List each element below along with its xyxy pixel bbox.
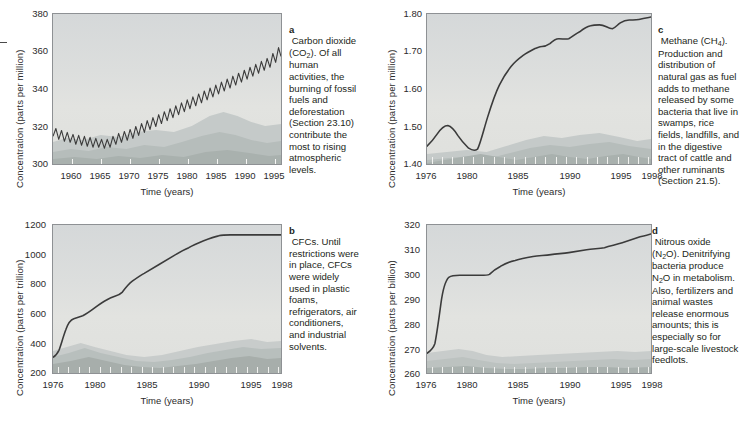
panel-c-methane-curve [427, 14, 651, 164]
panel-d-xtick-1976: 1976 [412, 379, 440, 390]
greenhouse-gas-figure: Concentration (parts per million) 380 36… [0, 0, 743, 432]
panel-d-ytick-310: 310 [390, 244, 420, 255]
panel-a-caption: a Carbon dioxide (CO2). Of all human act… [289, 12, 359, 175]
panel-c-xtick-1980: 1980 [453, 170, 481, 181]
panel-d-ytick-290: 290 [390, 294, 420, 305]
panel-d-ytick-320: 320 [390, 219, 420, 230]
panel-d-ytick-260: 260 [390, 368, 420, 379]
panel-d-caption: d Nitrous oxide (N2O). Denitrifying bact… [652, 213, 740, 366]
panel-a-plot-area [52, 13, 282, 165]
panel-a-xtick-1990: 1990 [231, 170, 259, 181]
panel-b-xlabel: Time (years) [52, 395, 282, 406]
panel-d-n2o-curve [427, 225, 651, 373]
panel-a-ytick-320: 320 [20, 121, 48, 132]
panel-d-xlabel: Time (years) [426, 395, 652, 406]
panel-b-ytick-400: 400 [14, 338, 46, 349]
panel-c-ytick-180: 1.80 [390, 8, 422, 19]
panel-b-ytick-1000: 1000 [14, 249, 46, 260]
panel-b-plot-area [52, 224, 282, 374]
panel-d-caption-lead: d [652, 225, 658, 236]
panel-c-xtick-1976: 1976 [412, 170, 440, 181]
panel-d-xtick-1990: 1990 [556, 379, 584, 390]
panel-a-xtick-1965: 1965 [86, 170, 114, 181]
panel-b-ytick-200: 200 [14, 367, 46, 378]
panel-d-ytick-280: 280 [390, 319, 420, 330]
panel-b-xtick-1998: 1998 [268, 379, 296, 390]
panel-d-xtick-1995: 1995 [607, 379, 635, 390]
panel-b-xtick-1990: 1990 [185, 379, 213, 390]
panel-a-ytick-340: 340 [20, 83, 48, 94]
panel-a-caption-lead: a [289, 24, 294, 35]
panel-a-xtick-1975: 1975 [144, 170, 172, 181]
panel-d-ytick-270: 270 [390, 344, 420, 355]
panel-a-co2-curve [53, 14, 281, 164]
panel-c-caption: c Methane (CH4). Production and distribu… [658, 12, 740, 187]
panel-a-xtick-1960: 1960 [57, 170, 85, 181]
panel-c-ytick-150: 1.50 [390, 121, 422, 132]
panel-a-ytick-300: 300 [20, 158, 48, 169]
panel-d-caption-text: Nitrous oxide (N2O). Denitrifying bacter… [652, 236, 738, 365]
panel-c-xlabel: Time (years) [426, 186, 652, 197]
panel-b-ytick-1200: 1200 [14, 219, 46, 230]
panel-a-xlabel: Time (years) [52, 186, 282, 197]
panel-c-caption-text: Methane (CH4). Production and distributi… [658, 35, 739, 186]
panel-b-caption-lead: b [289, 225, 295, 236]
panel-c-caption-lead: c [658, 24, 663, 35]
panel-d-xtick-1985: 1985 [504, 379, 532, 390]
panel-b-cfc-curve [53, 225, 281, 373]
panel-b-xtick-1985: 1985 [133, 379, 161, 390]
panel-b-ytick-600: 600 [14, 308, 46, 319]
panel-d-ytick-300: 300 [390, 269, 420, 280]
panel-a-ytick-380: 380 [20, 8, 48, 19]
panel-c-xtick-1985: 1985 [504, 170, 532, 181]
panel-c-ytick-160: 1.60 [390, 83, 422, 94]
panel-a-xtick-1980: 1980 [173, 170, 201, 181]
panel-d-xtick-1998: 1998 [638, 379, 666, 390]
panel-a-ytick-360: 360 [20, 45, 48, 56]
panel-a-xtick-1985: 1985 [202, 170, 230, 181]
panel-b-xtick-1980: 1980 [81, 379, 109, 390]
panel-c-xtick-1995: 1995 [607, 170, 635, 181]
panel-d-plot-area [426, 224, 652, 374]
panel-a-xtick-1995: 1995 [260, 170, 288, 181]
panel-b-ytick-800: 800 [14, 278, 46, 289]
panel-d-xtick-1980: 1980 [453, 379, 481, 390]
panel-b-xtick-1976: 1976 [39, 379, 67, 390]
panel-a-caption-text: Carbon dioxide (CO2). Of all human activ… [289, 35, 356, 175]
panel-b-caption-text: CFCs. Until restrictions were in place, … [289, 236, 359, 351]
panel-b-xtick-1995: 1995 [237, 379, 265, 390]
panel-c-xtick-1990: 1990 [556, 170, 584, 181]
panel-c-ytick-140: 1.40 [390, 158, 422, 169]
panel-c-ytick-170: 1.70 [390, 45, 422, 56]
panel-b-caption: b CFCs. Until restrictions were in place… [289, 213, 359, 352]
panel-c-plot-area [426, 13, 652, 165]
panel-a-xtick-1970: 1970 [115, 170, 143, 181]
